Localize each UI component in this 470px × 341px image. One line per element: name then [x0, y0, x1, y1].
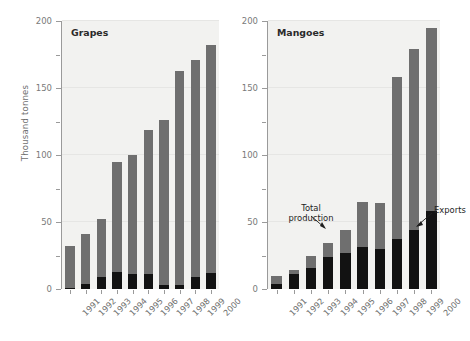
y-tick — [262, 88, 267, 89]
dual-bar-chart-figure: Thousand tonnes Total production Exports… — [0, 0, 470, 341]
bar-1992[interactable] — [289, 21, 299, 289]
bar-segment-exports — [306, 268, 316, 289]
x-tick — [294, 290, 295, 294]
y-tick-label: 150 — [232, 83, 258, 93]
chart-panel-grapes — [62, 21, 219, 289]
x-tick-label-1998: 1998 — [407, 296, 429, 318]
x-tick-label-1997: 1997 — [390, 296, 412, 318]
bar-segment-total-production — [112, 162, 121, 289]
x-tick — [117, 290, 118, 294]
y-tick — [262, 222, 267, 223]
bar-1997[interactable] — [375, 21, 385, 289]
bar-segment-total-production — [206, 45, 215, 289]
bar-segment-exports — [144, 274, 153, 289]
annotation-total-production: Total production — [268, 203, 354, 223]
bar-segment-exports — [159, 285, 168, 289]
y-tick — [56, 21, 61, 22]
x-tick — [277, 290, 278, 294]
bar-segment-exports — [206, 273, 215, 289]
bar-1995[interactable] — [128, 21, 137, 289]
bar-1996[interactable] — [357, 21, 367, 289]
bar-segment-total-production — [159, 120, 168, 289]
y-tick-label: 100 — [26, 150, 52, 160]
x-tick — [380, 290, 381, 294]
y-tick-label: 50 — [26, 217, 52, 227]
x-tick-label-1991: 1991 — [287, 296, 309, 318]
bar-segment-exports — [409, 230, 419, 289]
annotation-total-production-line1: Total — [268, 203, 354, 213]
x-tick — [431, 290, 432, 294]
x-tick-label-1996: 1996 — [373, 296, 395, 318]
bar-1991[interactable] — [65, 21, 74, 289]
bar-segment-exports — [375, 249, 385, 289]
bar-segment-exports — [97, 277, 106, 289]
bar-segment-exports — [323, 257, 333, 289]
y-tick — [56, 88, 61, 89]
x-tick-label-1992: 1992 — [304, 296, 326, 318]
bar-1998[interactable] — [175, 21, 184, 289]
bar-segment-exports — [340, 253, 350, 289]
x-tick — [148, 290, 149, 294]
x-tick — [86, 290, 87, 294]
x-tick — [397, 290, 398, 294]
panel-title-mangoes: Mangoes — [277, 27, 324, 38]
x-tick — [211, 290, 212, 294]
bar-1999[interactable] — [191, 21, 200, 289]
bar-segment-exports — [357, 247, 367, 289]
y-tick — [262, 155, 267, 156]
bar-segment-exports — [175, 285, 184, 289]
y-tick — [262, 21, 267, 22]
bar-segment-total-production — [175, 71, 184, 289]
annotation-total-production-line2: production — [268, 213, 354, 223]
y-tick — [56, 122, 60, 123]
y-tick — [262, 55, 266, 56]
bar-1994[interactable] — [112, 21, 121, 289]
bar-1994[interactable] — [323, 21, 333, 289]
y-tick-label: 100 — [232, 150, 258, 160]
y-tick-label: 50 — [232, 217, 258, 227]
bar-segment-exports — [191, 277, 200, 289]
y-tick — [56, 55, 60, 56]
bar-1996[interactable] — [144, 21, 153, 289]
bar-1999[interactable] — [409, 21, 419, 289]
bar-1991[interactable] — [271, 21, 281, 289]
x-tick-label-1994: 1994 — [338, 296, 360, 318]
bar-1993[interactable] — [97, 21, 106, 289]
y-tick-label: 150 — [26, 83, 52, 93]
bar-segment-exports — [271, 284, 281, 289]
x-tick-label-1995: 1995 — [355, 296, 377, 318]
x-tick-label-1999: 1999 — [424, 296, 446, 318]
bar-2000[interactable] — [206, 21, 215, 289]
bar-segment-exports — [426, 211, 436, 289]
bar-segment-total-production — [128, 155, 137, 289]
x-tick — [363, 290, 364, 294]
bar-segment-total-production — [144, 130, 153, 289]
bar-segment-total-production — [191, 60, 200, 289]
bar-1997[interactable] — [159, 21, 168, 289]
bar-2000[interactable] — [426, 21, 436, 289]
y-tick-label: 200 — [26, 16, 52, 26]
x-tick — [133, 290, 134, 294]
bar-segment-exports — [289, 274, 299, 289]
y-tick — [262, 289, 267, 290]
y-tick-label: 0 — [26, 284, 52, 294]
x-tick — [195, 290, 196, 294]
bar-1998[interactable] — [392, 21, 402, 289]
x-tick — [164, 290, 165, 294]
y-tick — [56, 289, 61, 290]
y-tick-label: 200 — [232, 16, 258, 26]
x-tick-label-2000: 2000 — [221, 296, 243, 318]
bar-1995[interactable] — [340, 21, 350, 289]
x-tick-label-2000: 2000 — [441, 296, 463, 318]
y-axis-grapes — [61, 21, 62, 289]
annotation-exports: Exports — [434, 205, 466, 215]
bar-segment-exports — [112, 272, 121, 289]
bar-segment-total-production — [65, 246, 74, 289]
x-tick — [328, 290, 329, 294]
bar-segment-exports — [392, 239, 402, 289]
x-tick — [345, 290, 346, 294]
bar-segment-exports — [128, 274, 137, 289]
bar-1992[interactable] — [81, 21, 90, 289]
bar-1993[interactable] — [306, 21, 316, 289]
y-tick — [262, 122, 266, 123]
